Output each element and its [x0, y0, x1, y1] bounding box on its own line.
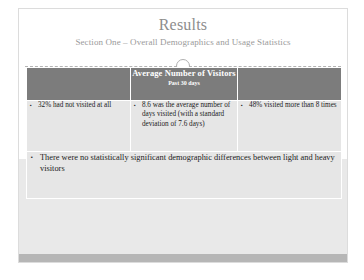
cell-bullet-list-1: 32% had not visited at all: [27, 101, 130, 110]
list-item: There were no statistically significant …: [27, 152, 341, 174]
summary-bullet-list: There were no statistically significant …: [27, 152, 341, 174]
table-cell-1: 32% had not visited at all: [27, 101, 131, 152]
table-cell-2: 8.6 was the average number of days visit…: [130, 101, 237, 152]
list-item: 48% visited more than 8 times: [238, 101, 341, 110]
table-header-row: Average Number of Visitors Past 30 days: [27, 68, 342, 101]
slide-title-block: Results Section One – Overall Demographi…: [19, 9, 347, 59]
table-row: 32% had not visited at all 8.6 was the a…: [27, 101, 342, 152]
screenshot-canvas: Results Section One – Overall Demographi…: [0, 0, 364, 280]
table-header-cell-1: [27, 68, 131, 101]
table-cell-3: 48% visited more than 8 times: [238, 101, 342, 152]
list-item: 8.6 was the average number of days visit…: [131, 101, 237, 129]
cell-bullet-list-3: 48% visited more than 8 times: [238, 101, 341, 110]
presentation-slide: Results Section One – Overall Demographi…: [18, 8, 348, 263]
table-summary-row: There were no statistically significant …: [27, 152, 342, 199]
results-table: Average Number of Visitors Past 30 days …: [26, 67, 342, 199]
table-header-cell-3: [238, 68, 342, 101]
slide-subtitle: Section One – Overall Demographics and U…: [19, 36, 347, 48]
slide-bottom-bar: [19, 254, 347, 262]
cell-bullet-list-2: 8.6 was the average number of days visit…: [131, 101, 237, 129]
page-title: Results: [19, 15, 347, 34]
table-header-cell-2: Average Number of Visitors Past 30 days: [130, 68, 237, 101]
table-summary-cell: There were no statistically significant …: [27, 152, 342, 199]
table-header-title-2: Average Number of Visitors: [131, 68, 237, 78]
list-item: 32% had not visited at all: [27, 101, 130, 110]
table-header-subtitle-2: Past 30 days: [131, 79, 237, 87]
